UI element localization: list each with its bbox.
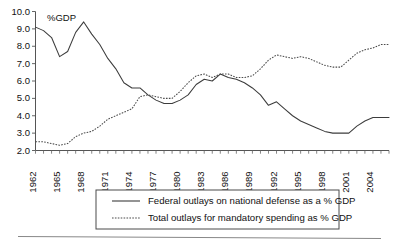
series-line-2 (36, 45, 390, 146)
x-tick-label: 1971 (99, 172, 110, 193)
y-tick-label: 4.0 (17, 110, 30, 121)
x-tick-label: 1992 (268, 172, 279, 193)
y-tick-label: 6.0 (17, 75, 30, 86)
y-tick-label: 10.0 (12, 6, 31, 17)
x-tick-label: 1968 (75, 172, 86, 193)
x-tick-label: 1986 (219, 172, 230, 193)
x-tick-label: 2001 (340, 172, 351, 193)
x-tick-label: 1989 (243, 172, 254, 193)
x-tick-label: 1998 (316, 172, 327, 193)
line-chart: 10.09.08.07.06.05.04.03.02.0 19621965196… (0, 0, 398, 247)
y-axis-unit-note: %GDP (47, 12, 76, 23)
y-tick-label: 2.0 (17, 145, 30, 156)
legend-label-2: Total outlays for mandatory spending as … (148, 212, 352, 223)
x-tick-label: 1995 (292, 172, 303, 193)
chart-legend: Federal outlays on national defense as a… (96, 190, 355, 229)
x-tick-label: 1980 (171, 172, 182, 193)
x-tick-label: 1983 (195, 172, 206, 193)
x-axis: 1962196519681971197419771980198319861989… (27, 151, 390, 193)
y-tick-label: 9.0 (17, 23, 30, 34)
footer-divider (18, 237, 381, 239)
y-tick-label: 8.0 (17, 40, 30, 51)
y-tick-label: 5.0 (17, 92, 30, 103)
chart-series-group (36, 22, 390, 145)
y-tick-label: 7.0 (17, 58, 30, 69)
legend-label-1: Federal outlays on national defense as a… (148, 195, 355, 206)
y-axis: 10.09.08.07.06.05.04.03.02.0 (12, 6, 36, 156)
x-tick-label: 1962 (27, 172, 38, 193)
x-tick-label: 1974 (123, 172, 134, 193)
x-tick-label: 2004 (364, 172, 375, 193)
chart-figure: 10.09.08.07.06.05.04.03.02.0 19621965196… (0, 0, 398, 247)
y-tick-label: 3.0 (17, 127, 30, 138)
x-tick-label: 1977 (147, 172, 158, 193)
x-tick-label: 1965 (51, 172, 62, 193)
